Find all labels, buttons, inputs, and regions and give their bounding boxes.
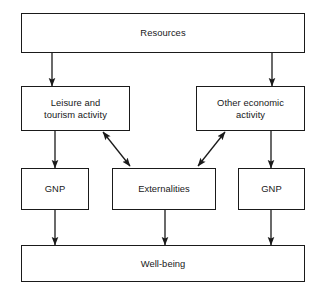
node-leisure-and-tourism-activity[interactable]: Leisure and tourism activity	[21, 86, 130, 131]
connector-other-externalities-bidirect	[198, 132, 225, 166]
node-well-being[interactable]: Well-being	[21, 245, 305, 282]
node-resources[interactable]: Resources	[21, 13, 305, 53]
node-other-economic-activity[interactable]: Other economic activity	[196, 86, 305, 131]
node-gnp-left[interactable]: GNP	[21, 168, 89, 210]
node-gnp-right-label: GNP	[259, 183, 283, 195]
node-other-economic-activity-label: Other economic activity	[215, 97, 286, 120]
node-gnp-right[interactable]: GNP	[238, 168, 305, 210]
flow-diagram: Resources Leisure and tourism activity O…	[0, 0, 322, 297]
node-gnp-left-label: GNP	[43, 183, 67, 195]
node-externalities[interactable]: Externalities	[112, 168, 216, 210]
connector-leisure-externalities-bidirect	[103, 132, 130, 166]
node-resources-label: Resources	[138, 27, 187, 39]
node-well-being-label: Well-being	[139, 258, 188, 270]
node-leisure-and-tourism-activity-label: Leisure and tourism activity	[42, 97, 109, 120]
node-externalities-label: Externalities	[136, 183, 192, 195]
